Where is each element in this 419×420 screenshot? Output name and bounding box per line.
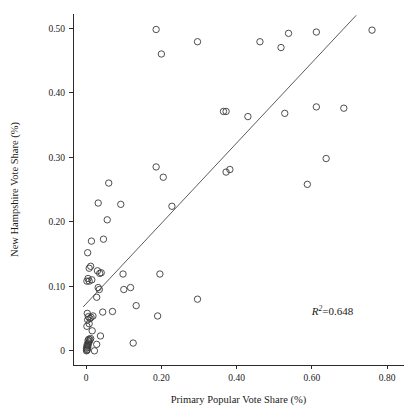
y-axis-ticks: 00.100.200.300.400.50 bbox=[48, 24, 73, 357]
data-point bbox=[304, 181, 310, 187]
regression-trendline bbox=[83, 15, 356, 307]
axes bbox=[73, 14, 404, 365]
data-point bbox=[285, 30, 291, 36]
data-point bbox=[95, 200, 101, 206]
data-point bbox=[313, 104, 319, 110]
data-point bbox=[369, 27, 375, 33]
data-point bbox=[153, 164, 159, 170]
r-value: =0.648 bbox=[322, 305, 353, 317]
data-point bbox=[104, 217, 110, 223]
data-point bbox=[257, 39, 263, 45]
data-point bbox=[121, 286, 127, 292]
y-tick-label: 0.20 bbox=[48, 217, 65, 227]
data-point bbox=[154, 313, 160, 319]
x-tick-label: 0.80 bbox=[379, 373, 396, 383]
y-axis-title: New Hampshire Vote Share (%) bbox=[9, 122, 21, 257]
data-point bbox=[84, 250, 90, 256]
data-point bbox=[341, 105, 347, 111]
data-point bbox=[194, 39, 200, 45]
data-point bbox=[313, 29, 319, 35]
x-axis-title: Primary Popular Vote Share (%) bbox=[171, 394, 307, 406]
data-point bbox=[86, 265, 92, 271]
data-point bbox=[89, 328, 95, 334]
data-point bbox=[94, 341, 100, 347]
scatter-plot-figure: 00.100.200.300.400.50 00.200.400.600.80 … bbox=[0, 0, 419, 420]
x-tick-label: 0 bbox=[84, 373, 89, 383]
data-point bbox=[106, 180, 112, 186]
y-tick-label: 0.10 bbox=[48, 282, 65, 292]
data-point bbox=[282, 110, 288, 116]
data-point bbox=[100, 309, 106, 315]
x-tick-label: 0.20 bbox=[153, 373, 170, 383]
chart-canvas: 00.100.200.300.400.50 00.200.400.600.80 … bbox=[0, 0, 419, 420]
x-tick-label: 0.40 bbox=[228, 373, 245, 383]
data-point bbox=[323, 155, 329, 161]
data-point bbox=[88, 238, 94, 244]
data-point bbox=[95, 284, 101, 290]
data-point bbox=[109, 308, 115, 314]
r-squared-annotation: R2=0.648 bbox=[311, 304, 354, 317]
data-point bbox=[91, 348, 97, 354]
data-point bbox=[120, 271, 126, 277]
data-point bbox=[133, 302, 139, 308]
data-point bbox=[158, 51, 164, 57]
y-tick-label: 0.30 bbox=[48, 153, 65, 163]
data-point bbox=[127, 284, 133, 290]
r-squared-label: R2=0.648 bbox=[311, 304, 354, 317]
data-point bbox=[160, 174, 166, 180]
data-point bbox=[245, 113, 251, 119]
x-tick-label: 0.60 bbox=[304, 373, 321, 383]
data-point bbox=[169, 203, 175, 209]
data-point bbox=[87, 263, 93, 269]
y-tick-label: 0.40 bbox=[48, 88, 65, 98]
y-tick-label: 0.50 bbox=[48, 24, 65, 34]
data-point bbox=[278, 44, 284, 50]
data-point bbox=[194, 296, 200, 302]
data-point bbox=[157, 271, 163, 277]
data-point bbox=[153, 26, 159, 32]
data-point bbox=[130, 340, 136, 346]
fit-line bbox=[83, 15, 356, 307]
data-point bbox=[97, 333, 103, 339]
y-tick-label: 0 bbox=[60, 346, 65, 356]
data-point bbox=[118, 201, 124, 207]
x-axis-ticks: 00.200.400.600.80 bbox=[84, 365, 396, 383]
data-point bbox=[100, 236, 106, 242]
